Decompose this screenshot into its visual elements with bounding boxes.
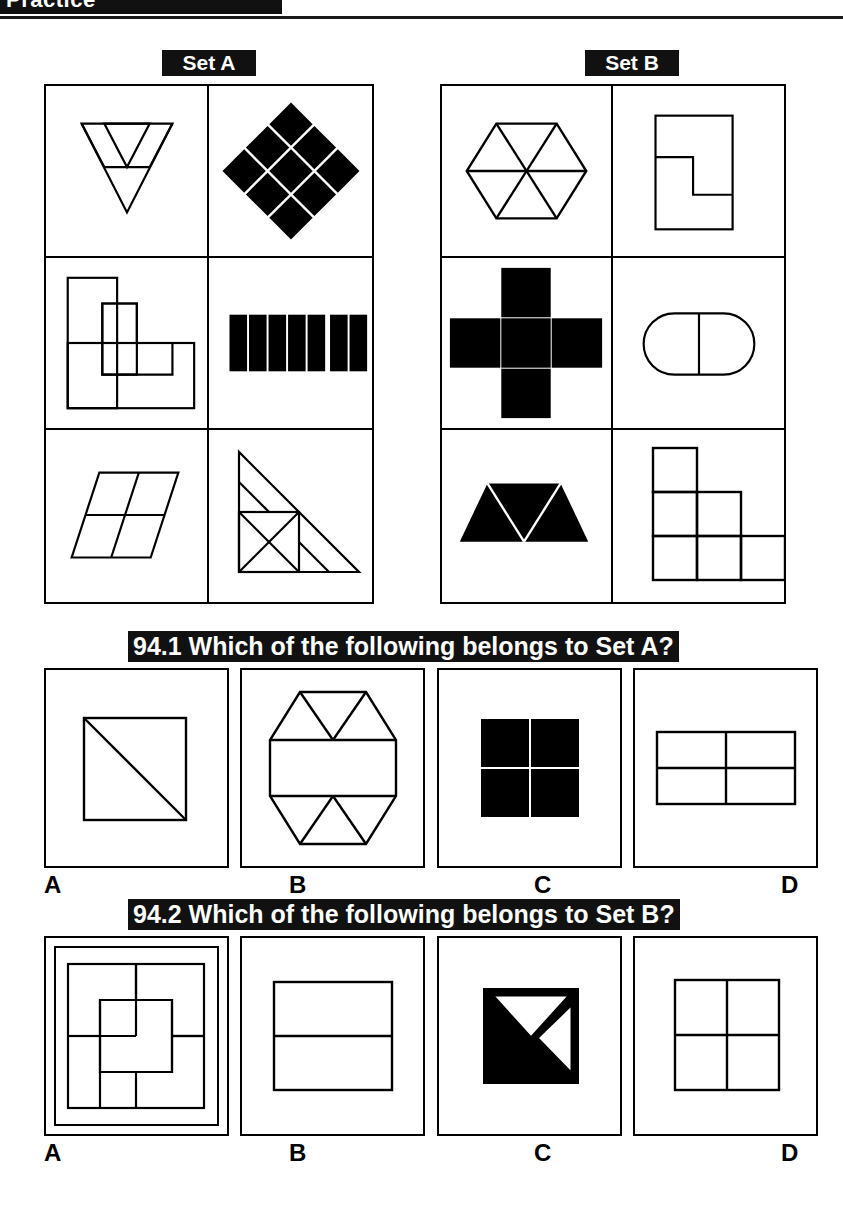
question-1-banner: 94.1 Which of the following belongs to S… (128, 631, 679, 662)
option-1c-four-black-squares[interactable] (437, 668, 622, 868)
set-b-grid (440, 84, 786, 604)
set-b-cell-1-hexagon-six-triangles (442, 86, 613, 258)
option-letter-2a: A (44, 1138, 229, 1168)
set-b-cell-4-stadium-split-vertically (613, 258, 784, 430)
option-1d-rectangle-quartered[interactable] (633, 668, 818, 868)
option-letter-1c: C (437, 870, 622, 900)
option-2a-nested-square-pinwheel[interactable] (44, 936, 229, 1136)
page-section-banner: Practice (0, 0, 282, 14)
option-letter-2c: C (437, 1138, 622, 1168)
option-1a-square-with-diagonal[interactable] (44, 668, 229, 868)
question-2-options: A B C (0, 936, 843, 1171)
set-b-cell-2-rectangle-with-z-step-line (613, 86, 784, 258)
set-b-label: Set B (585, 50, 679, 76)
set-a-cell-3-overlapping-rectangles-l-shape (46, 258, 209, 430)
option-2c-black-square-with-white-triangles[interactable] (437, 936, 622, 1136)
option-1b-hexagon-band-with-triangles[interactable] (240, 668, 425, 868)
set-a-cell-1-inverted-triangle-subdivided (46, 86, 209, 258)
option-2b-rectangle-split-horizontally[interactable] (240, 936, 425, 1136)
option-letter-1a: A (44, 870, 229, 900)
set-b-cell-5-black-trapezoid-three-triangles (442, 430, 613, 602)
set-a-cell-4-seven-black-vertical-bars (209, 258, 372, 430)
header-divider-rule (0, 16, 843, 19)
set-a-label: Set A (162, 50, 256, 76)
option-letter-1d: D (633, 870, 818, 900)
option-letter-1b: B (240, 870, 425, 900)
option-letter-2b: B (240, 1138, 425, 1168)
option-2d-square-quartered[interactable] (633, 936, 818, 1136)
set-a-cell-6-right-triangle-subdivided (209, 430, 372, 602)
set-b-cell-3-black-cross-with-white-lines (442, 258, 613, 430)
set-a-grid (44, 84, 374, 604)
question-2-banner: 94.2 Which of the following belongs to S… (128, 899, 680, 930)
option-letter-2d: D (633, 1138, 818, 1168)
set-a-cell-2-diamond-of-nine-black-squares (209, 86, 372, 258)
question-1-options: A B C (0, 668, 843, 903)
set-a-cell-5-parallelogram-quartered (46, 430, 209, 602)
set-b-cell-6-staircase-of-five-squares (613, 430, 784, 602)
